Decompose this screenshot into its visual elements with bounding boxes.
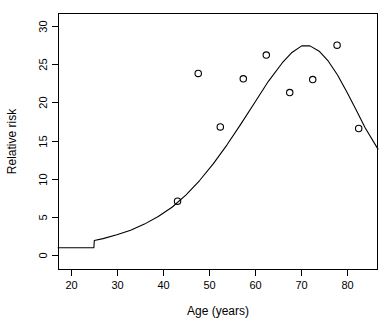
y-tick-label: 15: [37, 135, 49, 147]
y-tick-label: 20: [37, 96, 49, 108]
y-tick-label: 10: [37, 173, 49, 185]
observed-data-points: [174, 42, 362, 204]
relative-risk-by-age-chart: 20304050607080051015202530Age (years)Rel…: [0, 0, 388, 330]
y-tick-label: 30: [37, 20, 49, 32]
x-tick-label: 40: [157, 279, 169, 291]
x-tick-label: 50: [203, 279, 215, 291]
y-tick-label: 5: [37, 214, 49, 220]
x-tick-label: 20: [65, 279, 77, 291]
x-axis-title: Age (years): [187, 304, 249, 318]
data-point-marker: [195, 70, 201, 76]
data-point-marker: [240, 76, 246, 82]
data-point-marker: [174, 198, 180, 204]
y-tick-label: 0: [37, 252, 49, 258]
fitted-model-curve: [58, 46, 378, 248]
fitted-risk-curve: [58, 46, 378, 248]
x-tick-label: 30: [111, 279, 123, 291]
y-axis-title: Relative risk: [5, 108, 19, 174]
plot-frame: [59, 14, 378, 270]
chart-axes: [52, 14, 378, 277]
x-tick-label: 60: [249, 279, 261, 291]
x-tick-label: 80: [341, 279, 353, 291]
data-point-marker: [263, 52, 269, 58]
data-point-marker: [355, 125, 361, 131]
data-point-marker: [217, 124, 223, 130]
data-point-marker: [287, 89, 293, 95]
data-point-marker: [310, 76, 316, 82]
chart-canvas: 20304050607080051015202530Age (years)Rel…: [0, 0, 388, 330]
data-point-marker: [334, 42, 340, 48]
x-tick-label: 70: [295, 279, 307, 291]
y-tick-label: 25: [37, 58, 49, 70]
